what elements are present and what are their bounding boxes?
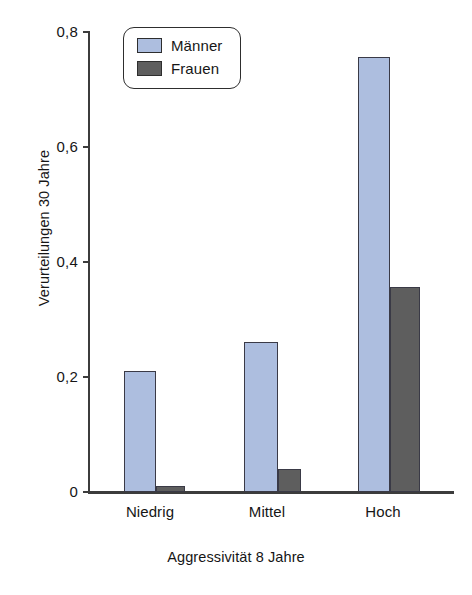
bar-group-mittel — [244, 31, 338, 492]
bar-group-niedrig — [124, 31, 218, 492]
bar-group-hoch — [358, 31, 452, 492]
y-tick-mark-0.8 — [83, 31, 90, 33]
y-axis-tick-labels: 0,8 0,6 0,4 0,2 0 — [18, 0, 78, 595]
female-color-swatch-icon — [137, 61, 162, 76]
x-tick-label-niedrig: Niedrig — [100, 503, 200, 520]
x-tick-label-mittel: Mittel — [222, 503, 312, 520]
chart-legend: Männer Frauen — [123, 27, 241, 89]
bar-frauen-niedrig[interactable] — [156, 486, 185, 492]
y-tick-label-0.8: 0,8 — [32, 23, 78, 40]
y-tick-mark-0.4 — [83, 261, 90, 263]
bar-maenner-hoch[interactable] — [358, 57, 390, 492]
legend-label-frauen: Frauen — [171, 60, 219, 77]
male-color-swatch-icon — [137, 38, 162, 53]
bar-maenner-mittel[interactable] — [244, 342, 278, 492]
y-tick-label-0.6: 0,6 — [32, 138, 78, 155]
legend-item-frauen[interactable]: Frauen — [137, 58, 219, 78]
y-tick-mark-0.6 — [83, 146, 90, 148]
bar-chart-figure: Verurteilungen 30 Jahre 0,8 0,6 0,4 0,2 … — [0, 0, 472, 595]
y-tick-label-0: 0 — [32, 483, 78, 500]
bar-frauen-mittel[interactable] — [278, 469, 301, 492]
y-tick-mark-0.2 — [83, 376, 90, 378]
y-tick-label-0.4: 0,4 — [32, 253, 78, 270]
y-tick-label-0.2: 0,2 — [32, 368, 78, 385]
x-axis-title: Aggressivität 8 Jahre — [0, 549, 472, 565]
bar-frauen-hoch[interactable] — [390, 287, 420, 492]
bar-maenner-niedrig[interactable] — [124, 371, 156, 492]
plot-area — [90, 31, 454, 492]
legend-label-maenner: Männer — [171, 37, 222, 54]
x-tick-label-hoch: Hoch — [338, 503, 428, 520]
legend-item-maenner[interactable]: Männer — [137, 35, 222, 55]
y-tick-mark-0 — [83, 491, 90, 493]
